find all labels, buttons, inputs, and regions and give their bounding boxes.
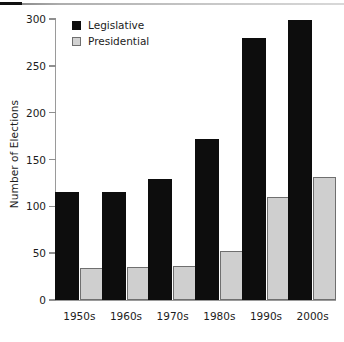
y-axis-tick-label: 50 bbox=[6, 247, 46, 259]
plot-area bbox=[56, 19, 336, 300]
bar-legislative-1950s bbox=[55, 192, 79, 300]
bar-chart: Number of Elections 050100150200250300 1… bbox=[0, 8, 344, 342]
y-axis-tick bbox=[49, 112, 56, 113]
bar-presidential-2000s bbox=[313, 177, 336, 300]
bar-presidential-1980s bbox=[220, 251, 243, 300]
legend-label-legislative: Legislative bbox=[88, 19, 144, 31]
chart-legend: Legislative Presidential bbox=[72, 18, 149, 48]
top-rule-dark-segment bbox=[0, 2, 22, 5]
legend-item-legislative: Legislative bbox=[72, 18, 149, 32]
y-axis-tick bbox=[49, 18, 56, 19]
bar-legislative-1970s bbox=[148, 179, 172, 300]
bar-presidential-1950s bbox=[80, 268, 103, 300]
bar-presidential-1960s bbox=[127, 267, 150, 300]
y-axis-tick-label: 300 bbox=[6, 13, 46, 25]
bar-legislative-2000s bbox=[288, 20, 312, 300]
legend-swatch-presidential-icon bbox=[72, 37, 81, 46]
y-axis-tick-label: 250 bbox=[6, 60, 46, 72]
bar-presidential-1970s bbox=[173, 266, 196, 300]
y-axis-tick bbox=[49, 65, 56, 66]
legend-label-presidential: Presidential bbox=[88, 35, 149, 47]
y-axis-tick-label: 200 bbox=[6, 107, 46, 119]
y-axis-tick-label: 150 bbox=[6, 154, 46, 166]
bar-legislative-1980s bbox=[195, 139, 219, 300]
legend-swatch-legislative-icon bbox=[72, 21, 81, 30]
y-axis-tick bbox=[49, 159, 56, 160]
bar-legislative-1990s bbox=[242, 38, 266, 300]
legend-item-presidential: Presidential bbox=[72, 34, 149, 48]
top-decorative-rule bbox=[0, 2, 344, 5]
bar-legislative-1960s bbox=[102, 192, 126, 300]
x-axis-line bbox=[55, 300, 336, 301]
x-axis-label-2000s: 2000s bbox=[283, 310, 343, 322]
y-axis-tick-label: 0 bbox=[6, 294, 46, 306]
top-rule-light-segment bbox=[22, 3, 344, 5]
bar-presidential-1990s bbox=[267, 197, 290, 300]
y-axis-tick-label: 100 bbox=[6, 200, 46, 212]
